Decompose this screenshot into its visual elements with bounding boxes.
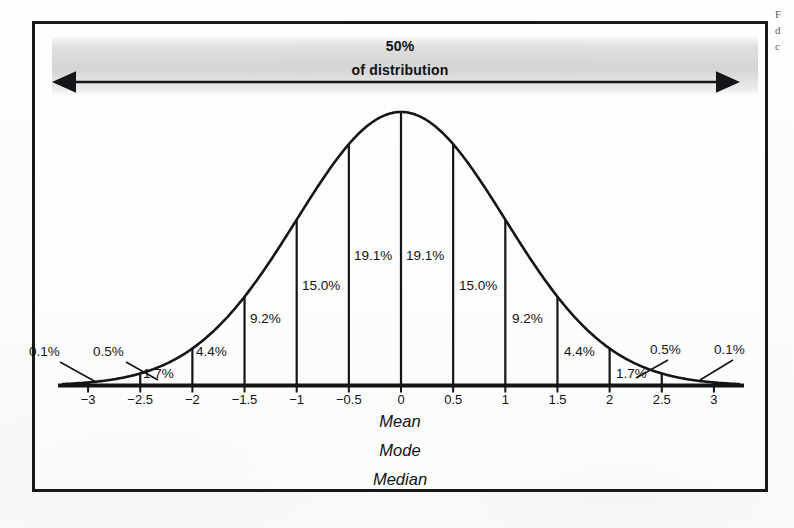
pct-bin-p20-p25: 1.7% (616, 366, 647, 381)
x-tick-label--2.5: −2.5 (127, 392, 153, 407)
x-tick-label-1: 1 (502, 392, 509, 407)
label-median: Median (250, 470, 550, 489)
pct-bin-n05-00: 19.1% (354, 248, 392, 263)
x-tick-label-0.5: 0.5 (444, 392, 462, 407)
margin-fragment-line-1: F (775, 6, 794, 22)
figure-page: 50% of distribution 0.1% 0.5% 1.7% 4.4% … (0, 0, 794, 528)
pct-bin-00-p05: 19.1% (406, 248, 444, 263)
pct-left-outer-tail: 0.1% (29, 344, 60, 359)
x-tick-label--0.5: −0.5 (336, 392, 362, 407)
x-tick-label--2: −2 (185, 392, 200, 407)
pct-bin-n20-n15: 4.4% (196, 344, 227, 359)
pct-bin-n10-n05: 15.0% (302, 278, 340, 293)
margin-fragment-line-2: d (775, 22, 794, 38)
pct-bin-p15-p20: 4.4% (564, 344, 595, 359)
x-tick-label-3: 3 (710, 392, 717, 407)
pct-bin-n15-n10: 9.2% (250, 311, 281, 326)
pct-right-tail: 0.5% (650, 342, 681, 357)
label-mode: Mode (250, 441, 550, 460)
label-mean: Mean (250, 412, 550, 431)
x-tick-label-1.5: 1.5 (548, 392, 566, 407)
pct-right-outer-tail: 0.1% (714, 342, 745, 357)
x-tick-label-2.5: 2.5 (653, 392, 671, 407)
pct-bin-p05-p10: 15.0% (459, 278, 497, 293)
margin-fragment-line-3: c (775, 38, 794, 54)
pct-left-tail: 0.5% (93, 344, 124, 359)
pct-bin-p10-p15: 9.2% (512, 311, 543, 326)
x-tick-label-2: 2 (606, 392, 613, 407)
x-tick-label--3: −3 (81, 392, 96, 407)
x-tick-label-0: 0 (397, 392, 404, 407)
x-tick-label--1: −1 (289, 392, 304, 407)
x-tick-label--1.5: −1.5 (232, 392, 258, 407)
pct-bin-n25-n20: 1.7% (143, 366, 174, 381)
margin-text-fragments: F d c (775, 6, 794, 54)
